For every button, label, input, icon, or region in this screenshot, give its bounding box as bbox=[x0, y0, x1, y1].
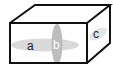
label-a: a bbox=[27, 39, 34, 53]
label-c: c bbox=[93, 27, 99, 41]
cross-section-a bbox=[11, 39, 79, 52]
top-face-edges bbox=[10, 5, 110, 23]
box-diagram: a b c bbox=[0, 0, 113, 83]
label-b: b bbox=[53, 38, 60, 52]
